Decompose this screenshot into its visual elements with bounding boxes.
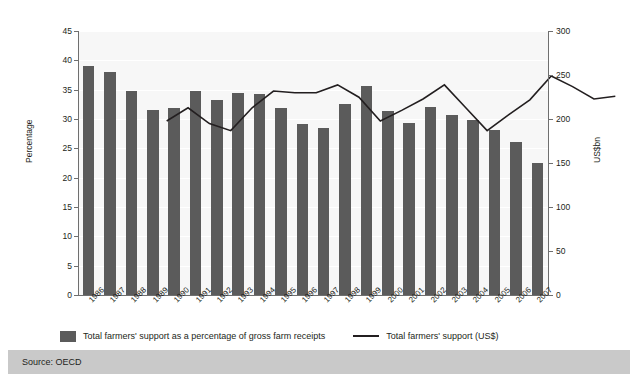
left-axis-tick-label: 40: [38, 55, 72, 65]
right-axis-title: US$bn: [592, 137, 602, 163]
left-axis-tick: [74, 31, 78, 32]
left-axis-tick-label: 15: [38, 202, 72, 212]
right-axis-tick-label: 200: [556, 114, 590, 124]
chart-legend: Total farmers' support as a percentage o…: [60, 328, 580, 344]
legend-label-bar: Total farmers' support as a percentage o…: [83, 331, 325, 341]
legend-item-line: Total farmers' support (US$): [353, 331, 498, 341]
bar: [126, 91, 138, 295]
left-axis-tick-labels: 051015202530354045: [34, 0, 72, 382]
left-axis-tick: [74, 90, 78, 91]
left-axis-tick-label: 10: [38, 231, 72, 241]
left-axis-tick: [74, 60, 78, 61]
legend-line-icon: [353, 335, 379, 337]
source-band: Source: OECD: [8, 350, 630, 374]
right-axis-tick-label: 0: [556, 290, 590, 300]
plot-area: [78, 31, 548, 295]
left-axis-tick: [74, 119, 78, 120]
left-axis-tick-label: 25: [38, 143, 72, 153]
right-axis-tick-label: 150: [556, 158, 590, 168]
left-axis-tick-label: 0: [38, 290, 72, 300]
left-axis-line: [78, 31, 79, 296]
legend-swatch-icon: [60, 331, 76, 342]
left-axis-tick: [74, 266, 78, 267]
left-axis-tick: [74, 148, 78, 149]
right-axis-tick: [549, 207, 553, 208]
left-axis-tick: [74, 178, 78, 179]
right-axis-tick: [549, 31, 553, 32]
gridline: [78, 31, 548, 32]
left-axis-tick: [74, 236, 78, 237]
right-axis-tick-labels: 050100150200250300: [556, 0, 596, 382]
right-axis-tick-label: 100: [556, 202, 590, 212]
bar: [104, 72, 116, 295]
bar: [83, 66, 95, 295]
left-axis-tick-label: 5: [38, 261, 72, 271]
right-axis-tick: [549, 251, 553, 252]
left-axis-tick-label: 45: [38, 26, 72, 36]
left-axis-title: Percentage: [24, 120, 34, 163]
right-axis-tick: [549, 163, 553, 164]
chart-figure: 051015202530354045 050100150200250300 Pe…: [0, 0, 638, 382]
x-axis-tick-labels: 1986198719881989199019911992199319941995…: [78, 296, 548, 330]
right-axis-tick-label: 50: [556, 246, 590, 256]
left-axis-tick: [74, 207, 78, 208]
right-axis-tick: [549, 119, 553, 120]
left-axis-tick-label: 35: [38, 85, 72, 95]
left-axis-tick-label: 20: [38, 173, 72, 183]
right-axis-tick-label: 300: [556, 26, 590, 36]
legend-label-line: Total farmers' support (US$): [386, 331, 498, 341]
source-text: Source: OECD: [8, 357, 82, 367]
right-axis-tick-label: 250: [556, 70, 590, 80]
right-axis-tick: [549, 75, 553, 76]
legend-item-bar: Total farmers' support as a percentage o…: [60, 331, 325, 342]
left-axis-tick-label: 30: [38, 114, 72, 124]
